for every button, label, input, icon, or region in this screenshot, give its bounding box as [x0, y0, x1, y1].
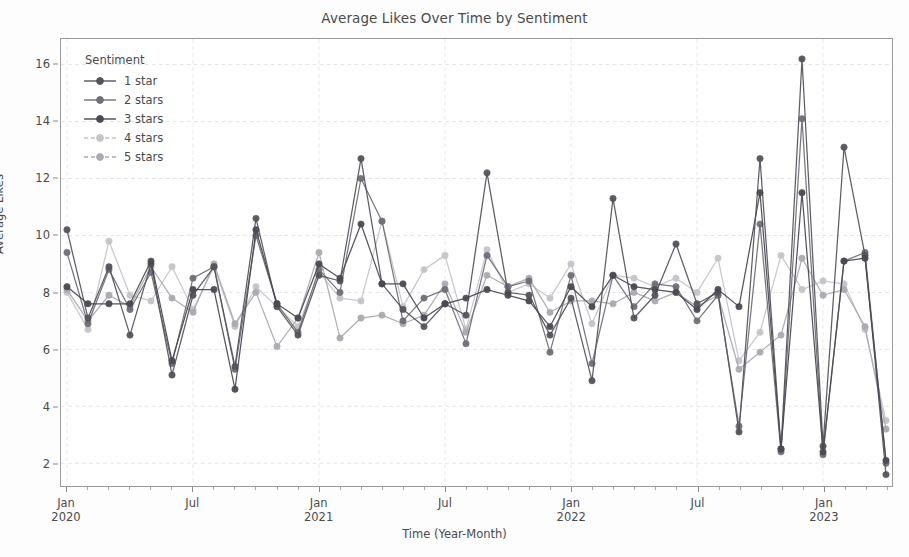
x-tick-mark	[445, 487, 446, 492]
x-tick-minor	[761, 487, 762, 490]
y-tick-mark	[53, 120, 58, 121]
x-tick-minor	[613, 487, 614, 490]
x-tick-label: Jan2023	[809, 496, 838, 524]
legend-item-2-stars[interactable]: 2 stars	[83, 90, 163, 109]
legend-swatch-icon	[83, 131, 117, 145]
legend-item-3-stars[interactable]: 3 stars	[83, 109, 163, 128]
y-tick-mark	[53, 178, 58, 179]
x-tick-label: Jul	[185, 496, 199, 510]
x-tick-label: Jan2020	[51, 496, 80, 524]
x-tick-mark	[66, 487, 67, 492]
y-tick-mark	[53, 464, 58, 465]
legend-item-1-star[interactable]: 1 star	[83, 71, 163, 90]
legend-item-label: 5 stars	[124, 150, 163, 164]
y-axis-label: Average Likes	[0, 134, 6, 294]
legend-item-4-stars[interactable]: 4 stars	[83, 128, 163, 147]
legend-swatch-icon	[83, 93, 117, 107]
x-tick-minor	[108, 487, 109, 490]
x-tick-minor	[361, 487, 362, 490]
x-tick-minor	[887, 487, 888, 490]
x-tick-minor	[782, 487, 783, 490]
x-tick-minor	[298, 487, 299, 490]
x-tick-minor	[634, 487, 635, 490]
y-axis-ticks: 246810121416	[0, 38, 58, 487]
x-tick-label: Jan2022	[557, 496, 586, 524]
x-tick-minor	[866, 487, 867, 490]
x-tick-minor	[655, 487, 656, 490]
legend-item-5-stars[interactable]: 5 stars	[83, 147, 163, 166]
y-tick-label: 12	[35, 171, 50, 185]
legend-items: 1 star2 stars3 stars4 stars5 stars	[83, 71, 163, 166]
y-tick-label: 16	[35, 57, 50, 71]
y-tick-label: 14	[35, 114, 50, 128]
legend[interactable]: Sentiment 1 star2 stars3 stars4 stars5 s…	[77, 51, 169, 168]
series-4-stars	[64, 218, 889, 424]
y-tick-label: 4	[43, 400, 50, 414]
y-tick-mark	[53, 235, 58, 236]
legend-swatch-icon	[83, 74, 117, 88]
plot-area: Sentiment 1 star2 stars3 stars4 stars5 s…	[60, 38, 893, 487]
legend-item-label: 3 stars	[124, 112, 163, 126]
x-tick-minor	[740, 487, 741, 490]
y-tick-label: 6	[43, 343, 50, 357]
x-tick-minor	[529, 487, 530, 490]
figure-canvas: Average Likes Over Time by Sentiment 246…	[0, 0, 909, 557]
x-tick-minor	[592, 487, 593, 490]
series-lines	[61, 39, 892, 486]
x-tick-minor	[466, 487, 467, 490]
series-1-star	[64, 56, 889, 478]
legend-item-label: 4 stars	[124, 131, 163, 145]
y-tick-label: 10	[35, 228, 50, 242]
x-tick-minor	[676, 487, 677, 490]
x-tick-label: Jan2021	[304, 496, 333, 524]
x-tick-label: Jul	[438, 496, 452, 510]
x-tick-minor	[803, 487, 804, 490]
y-tick-mark	[53, 63, 58, 64]
x-tick-minor	[508, 487, 509, 490]
legend-swatch-icon	[83, 112, 117, 126]
x-tick-minor	[129, 487, 130, 490]
x-tick-mark	[319, 487, 320, 492]
x-tick-minor	[150, 487, 151, 490]
x-tick-minor	[487, 487, 488, 490]
x-tick-minor	[234, 487, 235, 490]
x-tick-minor	[213, 487, 214, 490]
y-tick-label: 8	[43, 286, 50, 300]
x-tick-minor	[424, 487, 425, 490]
x-tick-mark	[571, 487, 572, 492]
x-tick-minor	[403, 487, 404, 490]
x-tick-minor	[719, 487, 720, 490]
legend-item-label: 2 stars	[124, 93, 163, 107]
x-tick-mark	[192, 487, 193, 492]
x-tick-minor	[550, 487, 551, 490]
x-tick-mark	[824, 487, 825, 492]
legend-title: Sentiment	[85, 53, 163, 67]
y-tick-mark	[53, 349, 58, 350]
x-tick-minor	[340, 487, 341, 490]
x-tick-minor	[255, 487, 256, 490]
y-tick-mark	[53, 406, 58, 407]
y-tick-mark	[53, 292, 58, 293]
y-tick-label: 2	[43, 457, 50, 471]
x-tick-mark	[698, 487, 699, 492]
x-tick-minor	[87, 487, 88, 490]
x-axis-label: Time (Year-Month)	[0, 527, 909, 541]
legend-swatch-icon	[83, 150, 117, 164]
x-tick-minor	[845, 487, 846, 490]
x-tick-minor	[171, 487, 172, 490]
x-tick-minor	[382, 487, 383, 490]
x-tick-minor	[277, 487, 278, 490]
legend-item-label: 1 star	[124, 74, 157, 88]
x-tick-label: Jul	[691, 496, 705, 510]
chart-title: Average Likes Over Time by Sentiment	[0, 10, 909, 26]
